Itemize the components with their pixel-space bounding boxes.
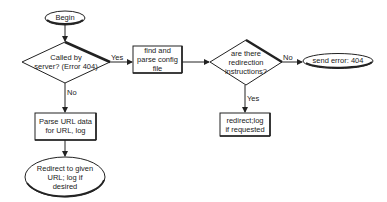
edge-label-no-2: No — [283, 53, 293, 62]
node-label-redirect-given-url: Redirect to given URL; log if desired — [25, 164, 105, 191]
node-label-called-by-server: Called by server? (Error 404) — [26, 53, 106, 71]
node-label-redirection-instructions: are there redirection instructions? — [216, 49, 276, 76]
node-label-find-parse-config: find and parse config file — [133, 46, 182, 73]
node-label-begin: Begin — [45, 13, 85, 22]
node-label-parse-url: Parse URL data for URL, log — [35, 117, 96, 135]
node-label-redirect-log: redirect;log if requested — [220, 116, 270, 134]
edge-label-yes-2: Yes — [247, 94, 259, 103]
node-label-send-error: send error: 404 — [303, 56, 373, 65]
edge-label-yes-1: Yes — [111, 53, 123, 62]
edge-label-no-1: No — [67, 88, 77, 97]
